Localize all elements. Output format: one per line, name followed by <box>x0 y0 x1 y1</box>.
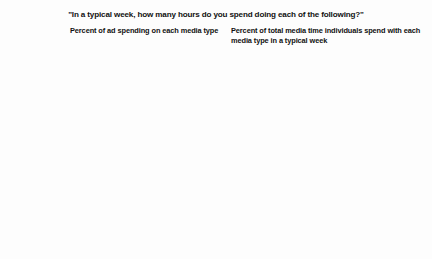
panel-heading-right: Percent of total media time individuals … <box>231 26 429 45</box>
panel-heading-left: Percent of ad spending on each media typ… <box>70 26 220 36</box>
chart-panel-ad-spending: Percent of ad spending on each media typ… <box>0 26 228 252</box>
chart-panel-media-time: Percent of total media time individuals … <box>228 26 432 252</box>
chart-title: "In a typical week, how many hours do yo… <box>0 10 432 19</box>
chart-figure: "In a typical week, how many hours do yo… <box>0 0 432 259</box>
